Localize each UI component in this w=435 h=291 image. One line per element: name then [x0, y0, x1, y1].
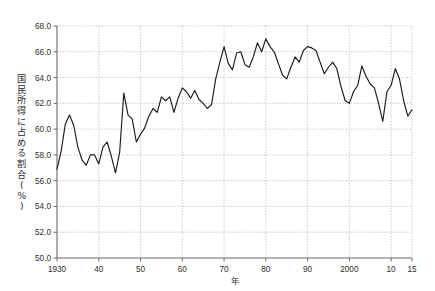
x-tick-label: 80: [261, 265, 271, 274]
x-axis-title: 年: [231, 276, 239, 286]
y-axis-title-char: 所: [17, 94, 26, 105]
y-axis-title-char: る: [17, 147, 26, 158]
chart-background: [0, 0, 435, 291]
y-tick-label: 52.0: [35, 228, 51, 237]
y-tick-label: 50.0: [35, 254, 51, 263]
x-tick-label: 1930: [48, 265, 67, 274]
y-axis-title-char: 割: [17, 158, 26, 169]
y-axis-title-char: %: [17, 190, 26, 201]
x-tick-label: 2000: [340, 265, 359, 274]
y-tick-label: 66.0: [35, 48, 51, 57]
y-tick-label: 56.0: [35, 177, 51, 186]
y-axis-title-char: (: [20, 179, 24, 190]
x-tick-label: 50: [136, 265, 146, 274]
y-axis-title-char: に: [17, 116, 26, 127]
y-axis-title-char: ): [20, 200, 24, 211]
x-tick-label: 60: [178, 265, 188, 274]
y-axis-title: 国民所得に占める割合(%): [17, 73, 26, 211]
y-tick-label: 60.0: [35, 125, 51, 134]
x-tick-label: 15: [407, 265, 417, 274]
x-tick-label: 40: [94, 265, 104, 274]
line-chart: 68.066.064.062.060.058.056.054.052.050.0…: [0, 0, 435, 291]
y-tick-label: 64.0: [35, 74, 51, 83]
y-axis-title-char: め: [17, 137, 26, 148]
x-tick-label: 10: [387, 265, 397, 274]
y-axis-title-char: 合: [17, 169, 26, 180]
y-tick-label: 58.0: [35, 151, 51, 160]
y-tick-label: 68.0: [35, 22, 51, 31]
y-tick-label: 62.0: [35, 99, 51, 108]
y-tick-label: 54.0: [35, 202, 51, 211]
y-axis-title-char: 得: [17, 105, 26, 116]
y-axis-title-char: 占: [17, 126, 26, 137]
y-axis-title-char: 民: [17, 84, 26, 95]
y-axis-title-char: 国: [17, 73, 26, 84]
x-tick-label: 70: [220, 265, 230, 274]
x-tick-label: 90: [303, 265, 313, 274]
chart-container: 68.066.064.062.060.058.056.054.052.050.0…: [0, 0, 435, 291]
